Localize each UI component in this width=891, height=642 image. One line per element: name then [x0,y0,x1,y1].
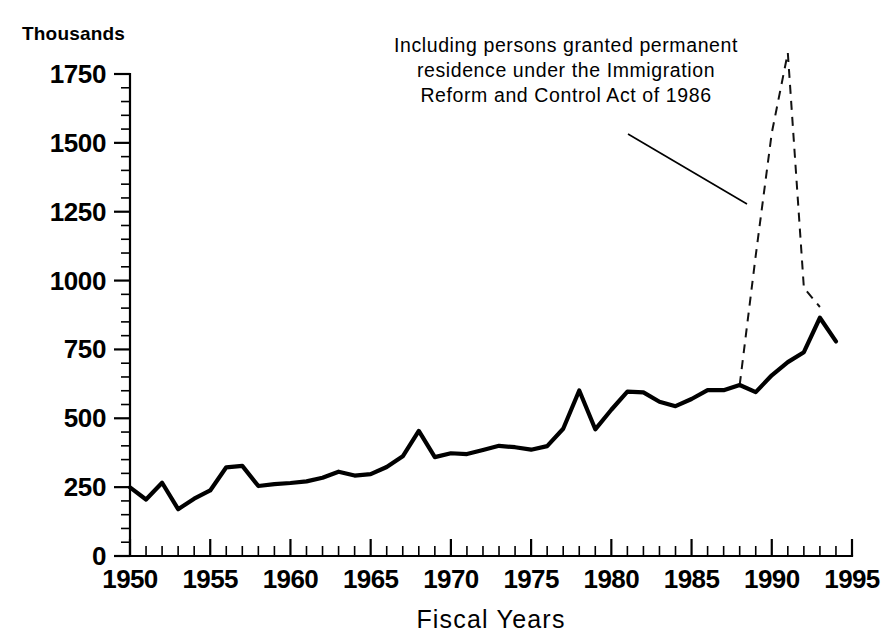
x-axis-tick-labels: 1950195519601965197019751980198519901995 [102,564,880,594]
y-axis-unit-label-text: Thousands [22,23,125,44]
x-axis-tick-label: 1970 [423,564,479,594]
y-axis-tick-label: 1500 [50,128,106,158]
x-axis-tick-label: 1975 [503,564,559,594]
annotation-line-1: Including persons granted permanent [394,34,738,56]
y-axis-tick-label: 500 [64,403,106,433]
line-chart: Thousands 02505007501000125015001750 195… [0,0,891,642]
y-axis-major-ticks [114,74,130,556]
x-axis-tick-label: 1995 [824,564,880,594]
annotation-line-3: Reform and Control Act of 1986 [420,84,711,106]
chart-container: Thousands 02505007501000125015001750 195… [0,0,891,642]
annotation-irca-note: Including persons granted permanent resi… [394,34,747,204]
y-axis-tick-label: 1750 [50,59,106,89]
y-axis: 02505007501000125015001750 [50,59,130,571]
series-line-immigrants [130,318,836,509]
data-series-group [130,53,836,509]
x-axis-tick-label: 1965 [343,564,399,594]
annotation-leader-line [628,134,747,204]
y-axis-tick-label: 750 [64,334,106,364]
y-axis-unit-label: Thousands [22,23,125,44]
x-axis-tick-label: 1955 [182,564,238,594]
x-axis-minor-ticks [146,546,836,556]
series-line-irca-total [740,53,820,385]
x-axis-tick-label: 1990 [744,564,800,594]
y-axis-tick-label: 1250 [50,197,106,227]
y-axis-minor-ticks [121,88,130,542]
x-axis-tick-label: 1980 [584,564,640,594]
y-axis-tick-labels: 02505007501000125015001750 [50,59,106,571]
x-axis: 1950195519601965197019751980198519901995… [102,539,880,633]
x-axis-title: Fiscal Years [416,605,565,633]
x-axis-major-ticks [130,539,852,556]
annotation-line-2: residence under the Immigration [417,59,715,81]
x-axis-tick-label: 1960 [263,564,319,594]
y-axis-tick-label: 250 [64,472,106,502]
x-axis-tick-label: 1950 [102,564,158,594]
x-axis-tick-label: 1985 [664,564,720,594]
y-axis-tick-label: 1000 [50,266,106,296]
